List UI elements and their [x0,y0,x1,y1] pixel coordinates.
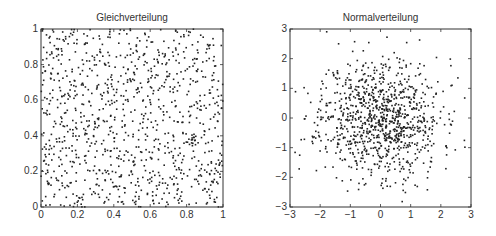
y-tick-label: −3 [256,202,287,212]
x-tick-label: 0.2 [62,210,92,220]
y-tick-label: 0 [7,202,38,212]
y-tick-label: −1 [256,143,287,153]
scatter-points [294,31,465,202]
x-tick-label: 1 [396,210,426,220]
y-tick-label: 0.4 [7,131,38,141]
x-tick-label: 1 [208,210,238,220]
x-tick-label: −1 [335,210,365,220]
x-tick-label: −2 [305,210,335,220]
scatter-plots-canvas [0,0,496,236]
x-tick-label: 3 [456,210,486,220]
y-tick-label: 0.2 [7,166,38,176]
x-tick-label: 2 [426,210,456,220]
y-tick-label: 0 [256,113,287,123]
x-tick-label: 0.6 [135,210,165,220]
y-tick-label: 3 [256,24,287,34]
x-tick-label: 0.4 [99,210,129,220]
y-tick-label: 0.6 [7,95,38,105]
y-tick-label: 1 [256,83,287,93]
x-tick-label: 0 [366,210,396,220]
scatter-points [40,28,223,208]
y-tick-label: 2 [256,54,287,64]
x-tick-label: 0.8 [172,210,202,220]
y-tick-label: 0.8 [7,60,38,70]
y-tick-label: 1 [7,24,38,34]
plot-frame [41,29,223,207]
y-tick-label: −2 [256,172,287,182]
